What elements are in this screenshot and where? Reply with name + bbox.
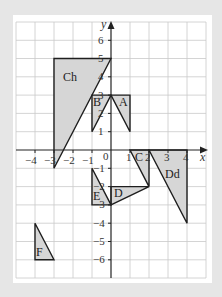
y-tick-label: 1 (98, 125, 104, 137)
x-tick-label: 2 (145, 151, 151, 163)
x-tick-label: 3 (164, 151, 170, 163)
x-tick-label: −4 (25, 154, 37, 166)
origin-label: 0 (103, 150, 109, 162)
y-tick-label: 5 (98, 52, 104, 64)
y-tick-label: −4 (93, 217, 105, 229)
y-axis-label: y (100, 17, 107, 31)
x-tick-label: 1 (126, 151, 132, 163)
shape-label-e: E (93, 189, 100, 203)
axes (16, 21, 208, 278)
x-axis-label: x (199, 150, 206, 164)
shape-label-c: C (135, 150, 143, 164)
shape-label-a: A (119, 95, 128, 109)
y-tick-label: 4 (98, 70, 104, 82)
shape-label-f: F (36, 245, 43, 259)
coordinate-grid-diagram: y x 0 −4 −3 −2 −1 1 2 3 4 6 5 4 3 2 1 −1… (0, 0, 222, 297)
y-tick-label: −1 (93, 162, 105, 174)
shape-label-dd: Dd (165, 167, 180, 181)
x-tick-label: −1 (82, 154, 94, 166)
shape-label-d: D (114, 186, 123, 200)
y-tick-label: −5 (93, 235, 105, 247)
y-tick-label: 6 (98, 34, 104, 46)
shape-label-ch: Ch (63, 70, 77, 84)
x-tick-label: −3 (44, 154, 56, 166)
y-tick-label: −6 (93, 253, 105, 265)
x-tick-label: 4 (183, 151, 189, 163)
shape-label-b: B (93, 95, 101, 109)
x-tick-label: −2 (63, 154, 75, 166)
